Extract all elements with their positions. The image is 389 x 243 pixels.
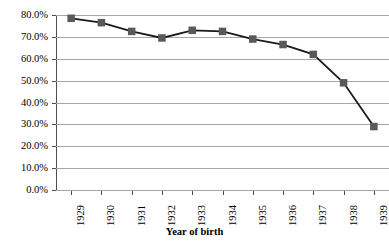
data-point-marker: [279, 41, 287, 49]
y-axis-tick: [52, 146, 56, 147]
data-point-marker: [67, 15, 75, 23]
y-axis-tick-label: 50.0%: [21, 76, 48, 86]
x-axis-tick: [344, 191, 345, 195]
x-axis-tick: [101, 191, 102, 195]
y-axis-tick-label: 10.0%: [21, 163, 48, 173]
y-axis-tick: [52, 59, 56, 60]
x-axis-tick: [192, 191, 193, 195]
x-axis-tick: [313, 191, 314, 195]
data-point-marker: [219, 28, 227, 36]
x-axis-tick: [71, 191, 72, 195]
clipped-title-remnant: [14, 0, 374, 2]
plot-area: [56, 15, 389, 190]
x-axis-tick-label: 1938: [348, 205, 359, 226]
data-point-marker: [249, 35, 257, 43]
x-axis-tick-label: 1935: [257, 205, 268, 226]
x-axis-tick: [132, 191, 133, 195]
y-axis-tick: [52, 103, 56, 104]
x-axis-tick-label: 1929: [75, 205, 86, 226]
series-line: [56, 15, 389, 190]
x-axis-tick-label: 1930: [105, 205, 116, 226]
x-axis-tick-label: 1939: [378, 205, 389, 226]
y-axis-tick-label: 60.0%: [21, 54, 48, 64]
x-axis-tick: [374, 191, 375, 195]
x-axis-tick: [223, 191, 224, 195]
x-axis-title: Year of birth: [0, 226, 389, 237]
x-axis-tick: [283, 191, 284, 195]
data-point-marker: [128, 28, 135, 36]
y-axis-tick-label: 70.0%: [21, 32, 48, 42]
x-axis-tick: [162, 191, 163, 195]
data-point-marker: [340, 79, 348, 87]
data-point-marker: [310, 51, 318, 59]
x-axis-tick-label: 1937: [317, 205, 328, 226]
line-chart: 0.0%10.0%20.0%30.0%40.0%50.0%60.0%70.0%8…: [0, 0, 389, 243]
y-axis-tick: [52, 15, 56, 16]
y-axis-tick-label: 80.0%: [21, 10, 48, 20]
x-axis-labels: 1929193019311932193319341935193619371938…: [56, 196, 389, 226]
y-axis-tick: [52, 81, 56, 82]
y-axis-tick: [52, 168, 56, 169]
data-point-marker: [98, 19, 106, 27]
x-axis-tick-label: 1933: [196, 205, 207, 226]
x-axis-tick-label: 1934: [227, 205, 238, 226]
y-axis-tick-label: 30.0%: [21, 119, 48, 129]
x-axis-tick-label: 1936: [287, 205, 298, 226]
x-axis-tick-label: 1932: [166, 205, 177, 226]
y-axis-tick-label: 0.0%: [26, 185, 48, 195]
data-point-marker: [158, 34, 166, 42]
y-axis-tick: [52, 124, 56, 125]
y-axis-tick-label: 20.0%: [21, 141, 48, 151]
y-axis-tick: [52, 190, 56, 191]
y-axis-labels: 0.0%10.0%20.0%30.0%40.0%50.0%60.0%70.0%8…: [0, 10, 52, 190]
x-axis-tick: [253, 191, 254, 195]
y-axis-tick-label: 40.0%: [21, 98, 48, 108]
x-axis-tick-label: 1931: [136, 205, 147, 226]
y-axis-tick: [52, 37, 56, 38]
data-point-marker: [188, 27, 196, 35]
data-point-marker: [370, 123, 378, 131]
